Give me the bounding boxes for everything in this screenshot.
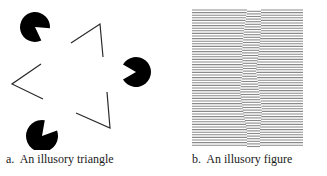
caption-a: a. An illusory triangle (6, 152, 114, 167)
caption-b: b. An illusory figure (192, 152, 292, 167)
kanizsa-triangle-drawing (0, 0, 165, 150)
illusory-figure-panel: b. An illusory figure (180, 0, 327, 176)
triangle-corner-line-3 (76, 92, 110, 128)
pacman-disc-1 (20, 12, 50, 42)
triangle-corner-line-1 (71, 24, 103, 57)
striped-illusory-figure-drawing (180, 0, 327, 150)
triangle-corner-line-2 (12, 64, 43, 99)
illusory-triangle-figure: a. An illusory triangle (0, 0, 165, 176)
pacman-disc-2 (123, 57, 151, 87)
pacman-disc-3 (26, 120, 58, 150)
stripe-lines (192, 10, 303, 147)
